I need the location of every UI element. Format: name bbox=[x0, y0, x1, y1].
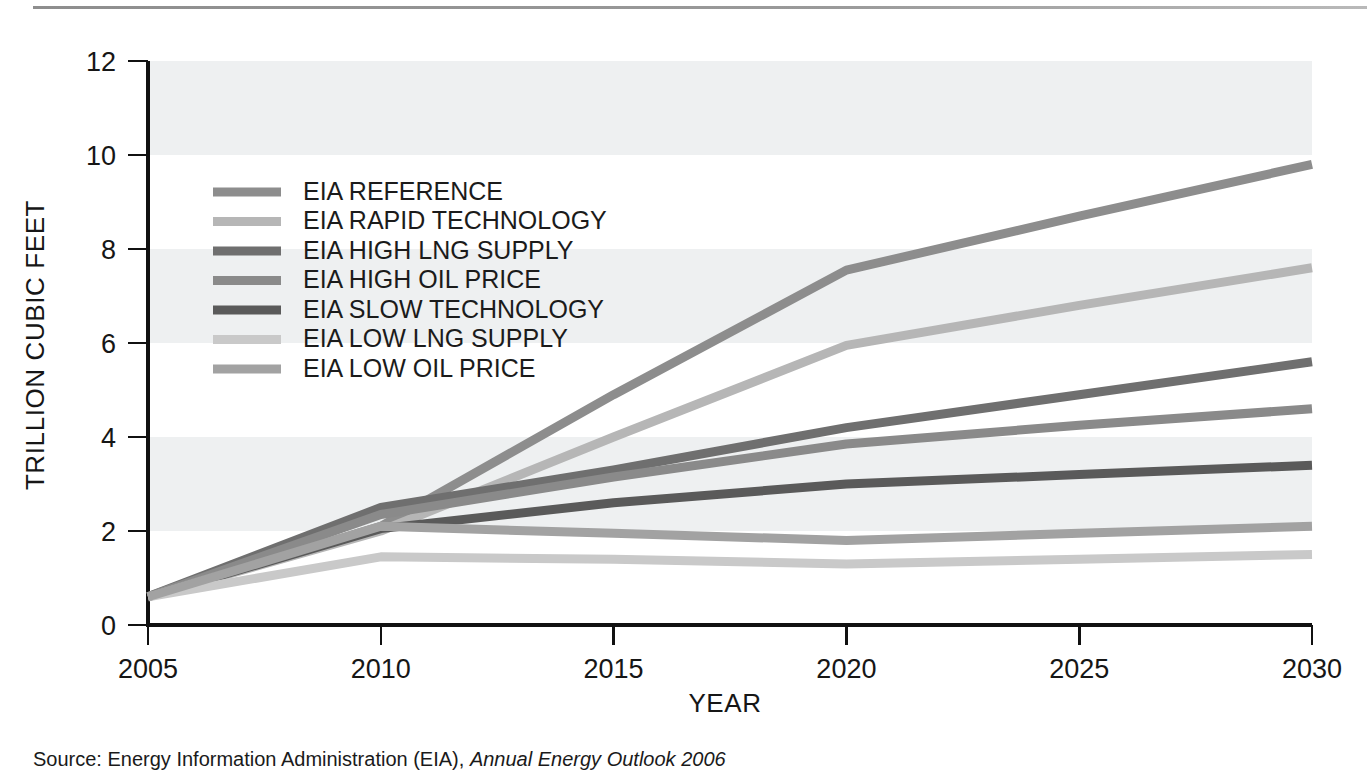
x-axis-title: YEAR bbox=[688, 688, 761, 718]
legend-label: EIA LOW LNG SUPPLY bbox=[303, 324, 568, 352]
legend-label: EIA RAPID TECHNOLOGY bbox=[303, 206, 607, 234]
legend-label: EIA HIGH OIL PRICE bbox=[303, 265, 541, 293]
legend-label: EIA REFERENCE bbox=[303, 177, 503, 205]
x-tick-label: 2020 bbox=[816, 654, 876, 684]
source-body: Energy Information Administration (EIA), bbox=[108, 748, 465, 770]
series-line bbox=[148, 555, 1312, 597]
legend-swatch bbox=[213, 188, 281, 197]
x-tick-label: 2010 bbox=[351, 654, 411, 684]
y-tick-label: 12 bbox=[86, 47, 116, 77]
legend-swatch bbox=[213, 217, 281, 226]
legend-swatch bbox=[213, 306, 281, 315]
legend-swatch bbox=[213, 365, 281, 374]
y-axis-ticks: 024681012 bbox=[86, 47, 148, 641]
x-tick-label: 2015 bbox=[584, 654, 644, 684]
legend-swatch bbox=[213, 276, 281, 285]
x-tick-label: 2025 bbox=[1049, 654, 1109, 684]
x-tick-label: 2030 bbox=[1282, 654, 1342, 684]
x-axis-ticks: 200520102015202020252030 bbox=[118, 625, 1342, 684]
y-tick-label: 2 bbox=[101, 517, 116, 547]
legend-swatch bbox=[213, 247, 281, 256]
y-tick-label: 10 bbox=[86, 141, 116, 171]
x-tick-label: 2005 bbox=[118, 654, 178, 684]
y-tick-label: 8 bbox=[101, 235, 116, 265]
source-caption: Source: Energy Information Administratio… bbox=[33, 748, 726, 771]
y-tick-label: 4 bbox=[101, 423, 116, 453]
y-tick-label: 0 bbox=[101, 611, 116, 641]
source-publication: Annual Energy Outlook 2006 bbox=[470, 748, 726, 770]
legend-label: EIA LOW OIL PRICE bbox=[303, 354, 535, 382]
y-tick-label: 6 bbox=[101, 329, 116, 359]
legend-swatch bbox=[213, 335, 281, 344]
source-prefix: Source: bbox=[33, 748, 102, 770]
y-axis-title: TRILLION CUBIC FEET bbox=[20, 200, 50, 490]
legend-label: EIA HIGH LNG SUPPLY bbox=[303, 236, 574, 264]
legend-label: EIA SLOW TECHNOLOGY bbox=[303, 295, 604, 323]
